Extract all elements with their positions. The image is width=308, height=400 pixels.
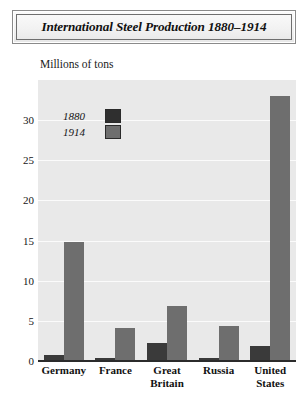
chart-title-frame: International Steel Production 1880–1914 bbox=[16, 14, 292, 40]
y-tick-label: 20 bbox=[4, 194, 38, 206]
gridline bbox=[38, 160, 296, 161]
x-category-label: UnitedStates bbox=[244, 364, 296, 390]
bar-1914-great-britain bbox=[167, 306, 187, 361]
bar-1914-germany bbox=[64, 242, 84, 361]
x-category-label: Germany bbox=[38, 364, 90, 377]
x-axis-line bbox=[38, 360, 296, 362]
x-category-line: United bbox=[244, 364, 296, 377]
bar-1880-great-britain bbox=[147, 343, 167, 361]
x-category-line: States bbox=[244, 377, 296, 390]
x-category-label: Russia bbox=[193, 364, 245, 377]
chart-title-plate: International Steel Production 1880–1914 bbox=[12, 10, 296, 44]
legend-item-1914: 1914 bbox=[63, 124, 133, 139]
x-category-line: Russia bbox=[193, 364, 245, 377]
x-category-label: GreatBritain bbox=[141, 364, 193, 390]
legend-swatch-1914 bbox=[105, 125, 121, 139]
y-tick-label: 0 bbox=[4, 355, 38, 367]
x-category-line: France bbox=[90, 364, 142, 377]
bar-1914-united-states bbox=[270, 96, 290, 361]
legend-label-1880: 1880 bbox=[63, 110, 99, 122]
legend-item-1880: 1880 bbox=[63, 108, 133, 123]
x-category-line: Germany bbox=[38, 364, 90, 377]
y-tick-label: 15 bbox=[4, 235, 38, 247]
bar-1914-france bbox=[115, 328, 135, 361]
y-axis-title: Millions of tons bbox=[40, 58, 113, 70]
legend-swatch-1880 bbox=[105, 109, 121, 123]
bar-1880-united-states bbox=[250, 346, 270, 361]
chart-legend: 1880 1914 bbox=[63, 108, 133, 140]
x-category-line: Great bbox=[141, 364, 193, 377]
legend-label-1914: 1914 bbox=[63, 126, 99, 138]
y-tick-label: 10 bbox=[4, 275, 38, 287]
y-tick-label: 25 bbox=[4, 154, 38, 166]
chart-figure: International Steel Production 1880–1914… bbox=[0, 0, 308, 400]
y-tick-label: 5 bbox=[4, 315, 38, 327]
x-axis-categories: GermanyFranceGreatBritainRussiaUnitedSta… bbox=[38, 364, 296, 398]
x-category-label: France bbox=[90, 364, 142, 377]
x-category-line: Britain bbox=[141, 377, 193, 390]
page-title: International Steel Production 1880–1914 bbox=[42, 19, 267, 35]
gridline bbox=[38, 200, 296, 201]
y-axis-ticks: 051015202530 bbox=[0, 0, 38, 400]
y-tick-label: 30 bbox=[4, 114, 38, 126]
bar-1914-russia bbox=[219, 326, 239, 361]
